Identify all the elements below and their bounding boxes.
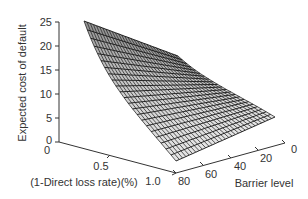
z-tick-5: 5 [46,112,52,124]
y-tick-40: 40 [234,160,246,172]
z-axis-label: Expected cost of default [16,24,28,141]
x-tick-0: 0 [44,144,50,156]
z-tick-20: 20 [40,40,52,52]
y-axis-label: Barrier level [235,177,294,189]
x-axis [59,142,176,175]
z-tick-15: 15 [40,64,52,76]
y-tick-0: 0 [291,143,297,155]
y-tick-20: 20 [260,152,272,164]
z-axis [55,22,59,142]
surface-chart: 25 20 15 10 5 0 Expected cost of default… [0,0,308,199]
z-tick-25: 25 [40,16,52,28]
surface-mesh [84,21,275,161]
y-tick-80: 80 [178,175,190,187]
x-tick-1-0: 1.0 [145,175,160,187]
x-tick-0-5: 0.5 [93,160,108,172]
z-tick-10: 10 [40,88,52,100]
y-tick-60: 60 [205,168,217,180]
x-axis-label: (1-Direct loss rate)(%) [30,176,138,188]
